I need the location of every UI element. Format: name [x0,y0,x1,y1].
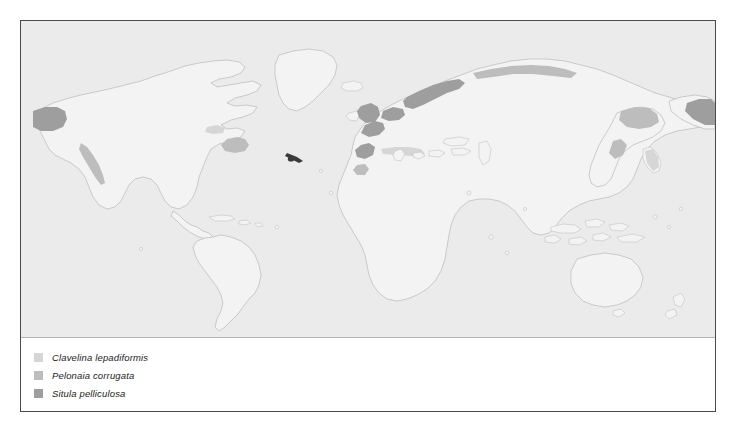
highlight-japan [645,149,659,171]
legend-label-situla-pelliculosa: Situla pelliculosa [52,388,125,399]
legend-item-situla-pelliculosa: Situla pelliculosa [21,385,715,402]
landmass-central-america [171,211,213,239]
caribbean-islands [209,215,263,227]
legend-label-pelonaia-corrugata: Pelonaia corrugata [52,370,134,381]
legend-swatch-situla-pelliculosa [34,389,43,398]
distribution-map-figure: Clavelina lepadiformis Pelonaia corrugat… [20,20,716,412]
world-map-svg [21,21,715,337]
point-record-marker [285,153,303,163]
world-map [21,21,715,337]
landmass-tasmania [613,309,625,317]
landmass-north-america [33,60,261,209]
landmass-japan [643,147,661,173]
map-legend: Clavelina lepadiformis Pelonaia corrugat… [21,338,715,411]
landmass-eurasia-africa [337,59,711,301]
legend-swatch-pelonaia-corrugata [34,371,43,380]
landmass-south-america [193,235,261,331]
legend-label-clavelina-lepadiformis: Clavelina lepadiformis [52,352,148,363]
legend-item-pelonaia-corrugata: Pelonaia corrugata [21,367,715,384]
landmass-iceland [341,81,363,91]
landmass-greenland [275,49,337,111]
landmass-australia [571,253,643,307]
landmass-british-isles [346,103,380,123]
landmass-southeast-asia [545,219,645,245]
landmass-new-zealand [665,293,685,319]
legend-swatch-clavelina-lepadiformis [34,353,43,362]
legend-item-clavelina-lepadiformis: Clavelina lepadiformis [21,349,715,366]
highlight-alaska [33,107,67,131]
